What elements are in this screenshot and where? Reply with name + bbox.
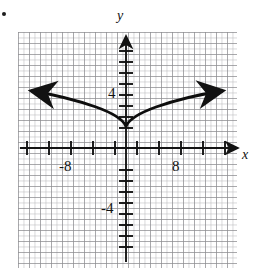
- y-tick-label-negative-4: -4: [101, 200, 114, 217]
- x-tick-label-negative-8: -8: [59, 158, 72, 175]
- coordinate-plane: [0, 0, 255, 268]
- x-tick-label-positive-8: 8: [172, 158, 180, 175]
- y-axis: [119, 36, 133, 262]
- plotted-curve: [32, 91, 222, 126]
- x-axis: [20, 141, 238, 155]
- y-tick-label-positive-4: 4: [108, 85, 116, 102]
- x-axis-label: x: [242, 147, 248, 163]
- y-axis-label: y: [117, 8, 123, 24]
- graph-figure: y x -8 8 4 -4: [0, 0, 255, 268]
